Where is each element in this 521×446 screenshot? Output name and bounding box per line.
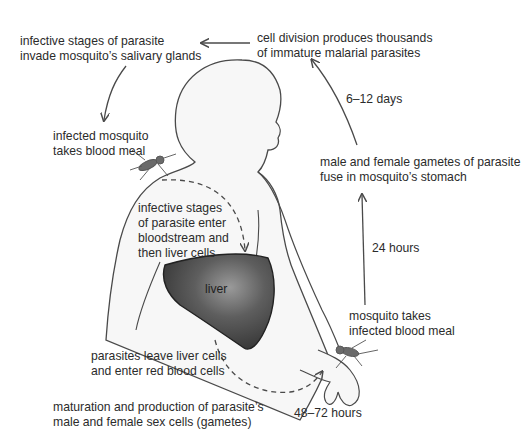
label-line: parasites leave liver cells [91, 349, 226, 364]
label-24-hours: 24 hours [372, 241, 419, 256]
label-6-12-days: 6–12 days [346, 92, 402, 107]
label-line: male and female gametes of parasite [320, 155, 521, 170]
label-line: infected blood meal [349, 324, 455, 339]
label-mosquito-takes: mosquito takes infected blood meal [349, 309, 455, 339]
label-gametes-fuse: male and female gametes of parasite fuse… [320, 155, 521, 185]
label-line: infective stages [138, 201, 229, 216]
label-line: takes blood meal [53, 144, 149, 159]
label-line: 6–12 days [346, 92, 402, 107]
label-leave-liver: parasites leave liver cells and enter re… [91, 349, 226, 379]
label-line: of immature malarial parasites [257, 46, 432, 61]
label-maturation: maturation and production of parasite’s … [53, 400, 263, 430]
label-line: fuse in mosquito’s stomach [320, 170, 521, 185]
label-line: 48–72 hours [294, 406, 362, 421]
label-cell-division: cell division produces thousands of imma… [257, 31, 432, 61]
label-line: then liver cells [138, 246, 229, 261]
label-line: male and female sex cells (gametes) [53, 415, 263, 430]
label-liver: liver [205, 282, 227, 297]
label-line: invade mosquito’s salivary glands [20, 49, 201, 64]
label-bloodstream: infective stages of parasite enter blood… [138, 201, 229, 261]
label-line: infective stages of parasite [20, 34, 201, 49]
label-line: of parasite enter [138, 216, 229, 231]
label-line: 24 hours [372, 241, 419, 256]
arrow-meal-to-fuse [362, 195, 365, 305]
arrow-salivary-to-mosquito [104, 66, 126, 120]
label-salivary-glands: infective stages of parasite invade mosq… [20, 34, 201, 64]
label-48-72-hours: 48–72 hours [294, 406, 362, 421]
label-line: liver [205, 282, 227, 297]
label-line: and enter red blood cells [91, 364, 226, 379]
label-infected-mosquito: infected mosquito takes blood meal [53, 129, 149, 159]
label-line: maturation and production of parasite’s [53, 400, 263, 415]
label-line: bloodstream and [138, 231, 229, 246]
label-line: infected mosquito [53, 129, 149, 144]
label-line: cell division produces thousands [257, 31, 432, 46]
label-line: mosquito takes [349, 309, 455, 324]
